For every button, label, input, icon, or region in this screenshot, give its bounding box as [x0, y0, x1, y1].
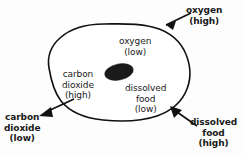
label-dissolved-food-high-line1: dissolved: [190, 117, 237, 128]
label-dissolved-food-high: dissolved food (high): [190, 117, 237, 149]
label-dissolved-food-low-line2: food: [125, 94, 166, 105]
label-carbon-dioxide-high-line3: (high): [62, 90, 94, 101]
label-dissolved-food-low-line3: (low): [125, 104, 166, 115]
label-oxygen-high-line2: (high): [186, 16, 222, 27]
label-dissolved-food-high-line2: food: [190, 128, 237, 139]
label-carbon-dioxide-high: carbon dioxide (high): [62, 69, 94, 101]
label-dissolved-food-low-line1: dissolved: [125, 83, 166, 94]
label-dissolved-food-low: dissolved food (low): [125, 83, 166, 115]
label-oxygen-high: oxygen (high): [186, 5, 222, 26]
label-oxygen-low: oxygen (low): [119, 36, 151, 57]
label-oxygen-high-line1: oxygen: [186, 5, 222, 16]
label-carbon-dioxide-high-line2: dioxide: [62, 80, 94, 91]
diagram-canvas: oxygen (high) carbon dioxide (low) disso…: [0, 0, 245, 157]
label-carbon-dioxide-high-line1: carbon: [62, 69, 94, 80]
label-oxygen-low-line2: (low): [119, 47, 151, 58]
label-oxygen-low-line1: oxygen: [119, 36, 151, 47]
label-carbon-dioxide-low-line2: dioxide: [4, 123, 40, 134]
label-carbon-dioxide-low-line3: (low): [4, 133, 40, 144]
label-carbon-dioxide-low-line1: carbon: [4, 112, 40, 123]
label-carbon-dioxide-low: carbon dioxide (low): [4, 112, 40, 144]
label-dissolved-food-high-line3: (high): [190, 138, 237, 149]
